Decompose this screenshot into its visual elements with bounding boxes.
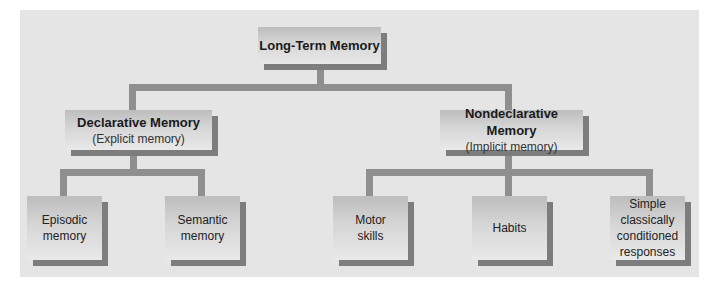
- node-episodic-memory: Episodic memory: [27, 196, 102, 260]
- node-label-line: Motor: [355, 212, 386, 228]
- node-label-line: Semantic: [177, 212, 227, 228]
- declarative-drop: [129, 84, 136, 110]
- node-title: Declarative Memory: [77, 114, 200, 131]
- level1-bar: [129, 84, 512, 91]
- node-label-line: skills: [358, 228, 384, 244]
- node-habits: Habits: [472, 196, 547, 260]
- node-label-line: memory: [181, 228, 224, 244]
- declarative-bar: [60, 169, 205, 176]
- node-title: Long-Term Memory: [259, 37, 379, 54]
- node-subtitle: (Implicit memory): [466, 139, 558, 155]
- semantic-drop: [198, 169, 205, 196]
- node-label-line: classically: [620, 212, 674, 228]
- node-title: Nondeclarative Memory: [440, 105, 583, 139]
- node-label-line: responses: [620, 244, 675, 260]
- node-nondeclarative-memory: Nondeclarative Memory (Implicit memory): [440, 110, 583, 150]
- motor-drop: [366, 169, 373, 196]
- nondeclarative-bar: [366, 169, 653, 176]
- node-declarative-memory: Declarative Memory (Explicit memory): [65, 110, 212, 150]
- node-label-line: Habits: [492, 220, 526, 236]
- node-label-line: conditioned: [617, 228, 678, 244]
- node-long-term-memory: Long-Term Memory: [258, 27, 381, 64]
- node-semantic-memory: Semantic memory: [165, 196, 240, 260]
- node-motor-skills: Motor skills: [333, 196, 408, 260]
- simple-drop: [646, 169, 653, 196]
- episodic-drop: [60, 169, 67, 196]
- node-subtitle: (Explicit memory): [92, 131, 185, 147]
- node-label-line: memory: [43, 228, 86, 244]
- node-simple-classically-conditioned-responses: Simple classically conditioned responses: [610, 196, 685, 260]
- node-label-line: Simple: [629, 196, 666, 212]
- node-label-line: Episodic: [42, 212, 87, 228]
